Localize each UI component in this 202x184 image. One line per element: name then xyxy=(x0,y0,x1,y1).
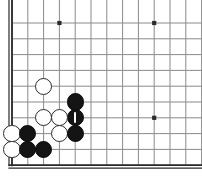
star-point xyxy=(152,21,156,25)
star-point xyxy=(57,21,61,25)
board-background xyxy=(0,0,202,184)
goban-grid[interactable] xyxy=(0,0,202,184)
star-point xyxy=(152,116,156,120)
go-board-diagram xyxy=(0,0,202,184)
